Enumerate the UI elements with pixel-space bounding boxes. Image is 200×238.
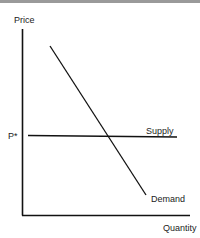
demand-label: Demand — [151, 194, 185, 204]
demand-curve — [50, 46, 146, 195]
supply-demand-diagram: Price Quantity P* Supply Demand — [0, 0, 200, 238]
supply-label: Supply — [146, 126, 174, 136]
y-axis-label: Price — [14, 15, 35, 25]
x-axis-label: Quantity — [163, 223, 197, 233]
price-marker-label: P* — [8, 131, 18, 141]
